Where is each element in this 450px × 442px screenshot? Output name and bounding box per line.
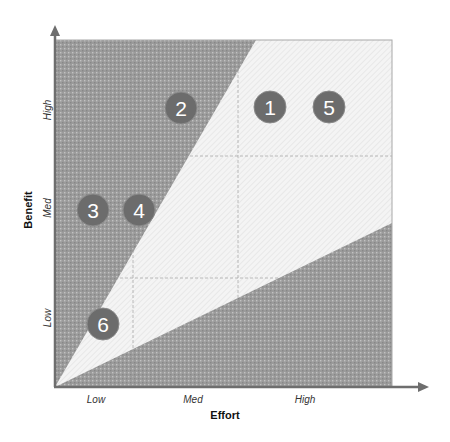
bubble-label: 4 (133, 199, 145, 222)
bubble-label: 3 (87, 199, 99, 222)
x-tick-med: Med (183, 394, 203, 405)
data-point-2: 2 (165, 92, 197, 124)
y-tick-low: Low (42, 308, 53, 327)
x-tick-labels: Low Med High (87, 394, 316, 405)
data-point-5: 5 (313, 91, 345, 123)
data-point-1: 1 (254, 91, 286, 123)
x-axis-title: Effort (210, 409, 240, 421)
bubble-label: 6 (97, 313, 109, 336)
y-axis-arrow-icon (50, 25, 60, 36)
data-point-3: 3 (77, 194, 109, 226)
y-tick-med: Med (42, 198, 53, 218)
y-axis-title: Benefit (22, 191, 34, 229)
bubble-label: 5 (323, 96, 335, 119)
effort-benefit-chart: Low Med High Low Med High Effort Benefit… (0, 0, 450, 442)
y-tick-high: High (42, 99, 53, 120)
y-tick-labels: Low Med High (42, 99, 53, 327)
bubble-label: 2 (175, 97, 187, 120)
bubble-label: 1 (264, 96, 276, 119)
x-tick-low: Low (87, 394, 106, 405)
data-point-4: 4 (123, 194, 155, 226)
x-axis-arrow-icon (418, 382, 429, 392)
x-tick-high: High (295, 394, 316, 405)
data-point-6: 6 (87, 308, 119, 340)
